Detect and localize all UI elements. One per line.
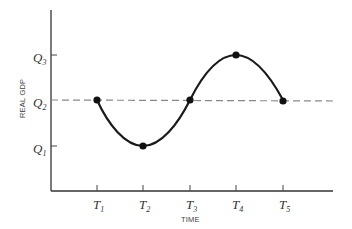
point-t3 <box>186 96 193 103</box>
y-label-q1: Q1 <box>33 141 46 158</box>
x-axis-title: TIME <box>181 215 200 224</box>
x-label-t5: T5 <box>279 197 290 214</box>
x-label-t4: T4 <box>232 197 243 214</box>
point-t1 <box>93 96 100 103</box>
x-label-t1: T1 <box>93 197 104 214</box>
y-axis-title: REAL GDP <box>18 79 27 118</box>
point-t5 <box>279 97 286 104</box>
business-cycle-chart: Q3 Q2 Q1 REAL GDP T1 T2 T3 T4 T5 TIME <box>0 0 352 229</box>
x-label-t2: T2 <box>139 197 150 214</box>
point-t4 <box>232 51 239 58</box>
y-label-q2: Q2 <box>33 95 46 112</box>
y-label-q3: Q3 <box>33 50 46 67</box>
point-t2 <box>139 142 146 149</box>
x-label-t3: T3 <box>186 197 197 214</box>
